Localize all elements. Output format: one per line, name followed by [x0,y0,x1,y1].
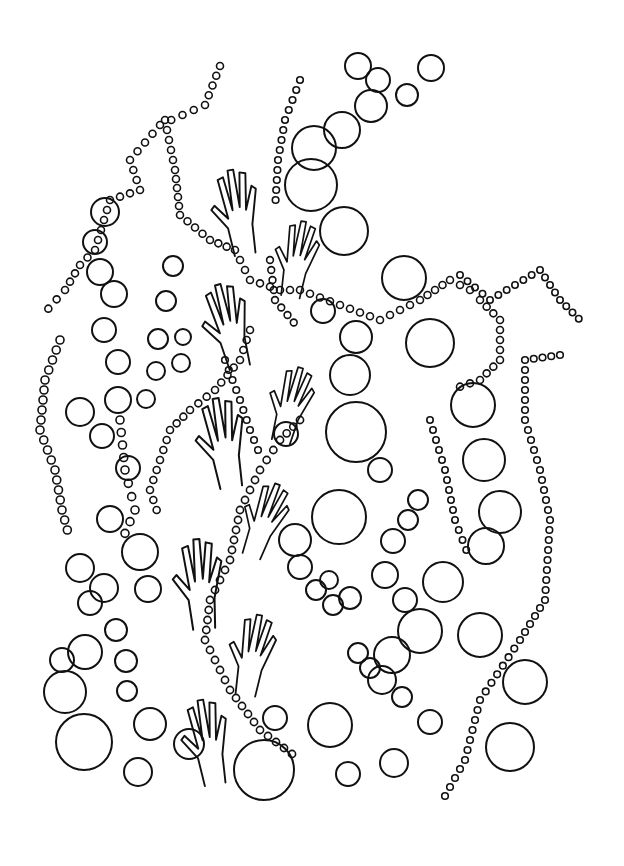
trail-dot [236,506,243,513]
trail-dot [274,177,281,184]
trail-dot [539,477,546,484]
bubble [78,591,102,615]
trail-dot [130,167,137,174]
trail-dot [247,277,254,284]
trail-dot [537,467,544,474]
trail-dot [127,157,134,164]
trail-dot [237,257,244,264]
trail-dot [36,426,44,434]
trail-dot [179,112,186,119]
trail-dot [487,297,493,303]
trail-dot [170,157,177,164]
trail-dot [203,626,210,633]
bubble [340,321,372,353]
trail-dot [203,393,210,400]
trail-dot [545,537,552,544]
bubble [134,708,166,740]
trail-dot [447,784,454,791]
bubble [418,55,444,81]
trail-dot [216,666,223,673]
trail-dot [234,516,241,523]
trail-dot [432,287,439,294]
trail-dot [251,476,258,483]
trail-dot [92,247,99,254]
bubble [105,387,131,413]
bubble [339,587,361,609]
coloring-page-artwork [0,0,624,866]
trail-dot [221,566,228,573]
trail-dot [192,224,199,231]
trail-dot [40,436,48,444]
trail-dot [121,466,129,474]
trail-dot [49,356,57,364]
trail-dot [207,237,214,244]
trail-dot [228,546,235,553]
trail-dot [137,187,144,194]
hand-group [169,166,322,788]
bubble [392,687,412,707]
trail-dot [53,296,60,303]
trail-dot [397,307,404,314]
trail-dot [522,377,529,384]
bubble [468,528,504,564]
trail-dot [430,427,436,433]
trail-dot [246,486,253,493]
bubble [458,613,502,657]
trail-dot [127,190,134,197]
trail-dot [257,280,264,287]
bubble [423,562,463,602]
trail-dot [439,282,446,289]
trail-dot [511,645,518,652]
trail-dot [247,427,254,434]
bubble [292,126,336,170]
trail-dot [490,363,497,370]
trail-dot [497,317,504,324]
trail-dot [209,82,216,89]
trail-dot [51,466,59,474]
trail-dot [269,277,276,284]
trail-dot [167,427,174,434]
trail-dot [462,757,469,764]
trail-dot [544,567,551,574]
bubble [408,490,428,510]
bubble [234,740,294,800]
trail-dot [569,309,575,315]
trail-dot [522,397,529,404]
trail-dot [157,457,164,464]
bubble [66,554,94,582]
bubble [330,355,370,395]
bubble [306,580,326,600]
bubble [406,319,454,367]
trail-dot [273,187,280,194]
trail-dot [477,377,484,384]
trail-dot [448,497,454,503]
trail-dot [542,587,549,594]
trail-dot [407,302,414,309]
bubble [312,490,366,544]
bubble [263,706,287,730]
trail-dot [548,353,555,360]
trail-dot [450,507,456,513]
trail-dot [307,290,314,297]
trail-dot [505,654,512,661]
trail-dot [576,316,582,322]
trail-dot [367,313,374,320]
bubble [147,362,165,380]
trail-dot [452,775,459,782]
trail-dot [543,577,550,584]
trail-dot [284,312,291,319]
trail-dot [541,487,548,494]
trail-dot [456,527,462,533]
trail-dot [497,357,504,364]
trail-dot [464,747,471,754]
trail-dot [545,547,552,554]
trail-dot [497,337,504,344]
trail-dot [205,92,212,99]
trail-dot [166,137,173,144]
bubble [97,506,123,532]
trail-dot [274,167,281,174]
bubble [396,84,418,106]
trail-dot [226,686,233,693]
bubble [115,650,137,672]
trail-dot [40,386,48,394]
